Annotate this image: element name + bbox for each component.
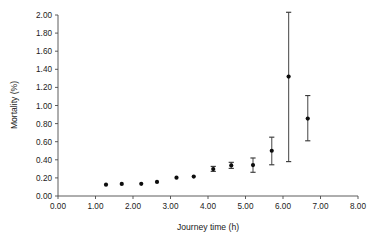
- x-tick-label: 7.00: [313, 202, 329, 211]
- data-point-marker: [139, 182, 143, 186]
- y-tick-label: 0.20: [36, 174, 52, 183]
- data-point-marker: [251, 163, 255, 167]
- data-point-marker: [104, 183, 108, 187]
- data-point-marker: [174, 176, 178, 180]
- data-points: [104, 12, 310, 187]
- x-tick-label: 2.00: [125, 202, 141, 211]
- x-tick-label: 0.00: [50, 202, 66, 211]
- x-tick-label: 6.00: [275, 202, 291, 211]
- y-tick-label: 1.20: [36, 83, 52, 92]
- y-tick-label: 1.60: [36, 47, 52, 56]
- tick-marks: [55, 15, 358, 199]
- x-tick-label: 5.00: [238, 202, 254, 211]
- x-tick-label: 4.00: [200, 202, 216, 211]
- data-point-marker: [229, 163, 233, 167]
- y-axis-title: Mortality (%): [9, 81, 19, 129]
- axes: [58, 15, 358, 196]
- scatter-plot: 0.001.002.003.004.005.006.007.008.00 0.0…: [0, 0, 387, 240]
- data-point-marker: [287, 74, 291, 78]
- data-point-marker: [155, 180, 159, 184]
- x-axis-title: Journey time (h): [177, 222, 239, 232]
- data-point-marker: [192, 174, 196, 178]
- x-tick-label: 3.00: [163, 202, 179, 211]
- data-point-marker: [306, 117, 310, 121]
- y-tick-labels: 0.000.200.400.600.801.001.201.401.601.80…: [36, 11, 52, 201]
- chart-figure: 0.001.002.003.004.005.006.007.008.00 0.0…: [0, 0, 387, 240]
- x-tick-label: 8.00: [350, 202, 366, 211]
- y-tick-label: 0.80: [36, 120, 52, 129]
- y-tick-label: 1.80: [36, 29, 52, 38]
- data-point-marker: [120, 182, 124, 186]
- y-tick-label: 1.00: [36, 102, 52, 111]
- y-tick-label: 2.00: [36, 11, 52, 20]
- y-tick-label: 0.60: [36, 138, 52, 147]
- y-tick-label: 0.00: [36, 192, 52, 201]
- x-tick-labels: 0.001.002.003.004.005.006.007.008.00: [50, 202, 366, 211]
- y-tick-label: 1.40: [36, 65, 52, 74]
- x-tick-label: 1.00: [88, 202, 104, 211]
- data-point-marker: [270, 149, 274, 153]
- data-point-marker: [211, 167, 215, 171]
- y-tick-label: 0.40: [36, 156, 52, 165]
